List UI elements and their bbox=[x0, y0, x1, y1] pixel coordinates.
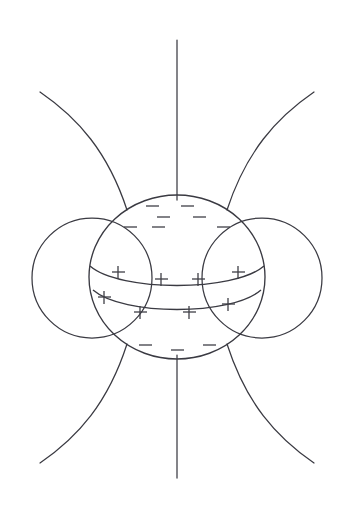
figure-root bbox=[0, 0, 354, 517]
field-diagram-svg bbox=[0, 0, 354, 517]
